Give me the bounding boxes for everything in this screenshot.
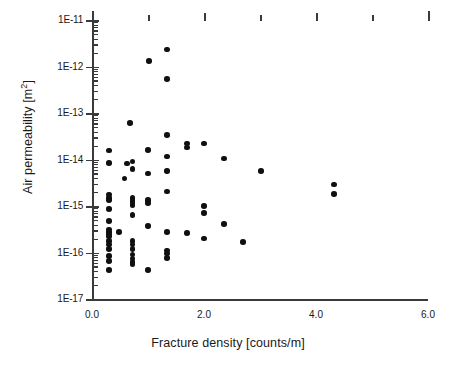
y-axis-title-text: Air permeability [m	[21, 89, 35, 194]
data-point	[106, 246, 112, 252]
y-tick-label: 1E-14	[57, 155, 83, 165]
data-point	[106, 218, 112, 224]
data-point	[145, 223, 151, 229]
y-tick-minor	[92, 146, 98, 147]
y-tick-minor	[92, 184, 98, 185]
data-point	[201, 203, 207, 209]
y-tick-minor	[92, 225, 98, 226]
y-tick-minor	[92, 123, 98, 124]
data-point	[164, 229, 170, 235]
y-tick-minor	[92, 260, 98, 261]
data-point	[201, 236, 207, 242]
data-point	[116, 229, 122, 235]
x-tick-label: 6.0	[421, 310, 435, 320]
data-point	[164, 132, 170, 138]
y-tick-minor	[92, 44, 98, 45]
x-tick-major	[92, 11, 94, 21]
y-tick-minor	[92, 162, 98, 163]
y-tick-minor	[92, 77, 98, 78]
data-point	[164, 47, 170, 53]
y-tick-minor	[92, 74, 98, 75]
data-point	[164, 255, 170, 261]
y-tick-minor	[92, 266, 98, 267]
data-point	[130, 246, 136, 252]
y-tick-minor	[92, 118, 98, 119]
data-point	[145, 147, 151, 153]
scatter-plot-figure: 1E-111E-121E-131E-141E-151E-161E-17 0.02…	[0, 0, 456, 365]
data-point	[145, 267, 151, 273]
y-tick-label: 1E-17	[57, 294, 83, 304]
data-point	[130, 166, 136, 172]
data-point	[258, 168, 264, 174]
y-axis-title: Air permeability [m2]	[21, 7, 35, 267]
y-tick-minor	[92, 277, 98, 278]
y-tick-minor	[92, 213, 98, 214]
data-point	[130, 261, 136, 267]
data-point	[122, 176, 128, 182]
y-tick-minor	[92, 71, 98, 72]
y-tick-minor	[92, 91, 98, 92]
y-tick-minor	[92, 27, 98, 28]
y-axis-title-suffix: ]	[21, 80, 35, 84]
y-tick-minor	[92, 80, 98, 81]
data-point	[106, 258, 112, 264]
data-point	[106, 267, 112, 273]
data-point	[146, 58, 152, 64]
y-tick-minor	[92, 263, 98, 264]
data-point	[184, 145, 190, 151]
data-point	[164, 154, 170, 160]
y-tick-minor	[92, 99, 98, 100]
x-tick-label: 2.0	[197, 310, 211, 320]
data-point	[164, 168, 170, 174]
y-tick-minor	[92, 192, 98, 193]
x-tick-minor	[148, 15, 150, 21]
data-point	[106, 232, 112, 238]
plot-area: 1E-111E-121E-131E-141E-151E-161E-17 0.02…	[92, 20, 428, 299]
data-point	[201, 210, 207, 216]
y-tick-minor	[92, 25, 98, 26]
data-point	[130, 200, 136, 206]
y-tick-minor	[92, 30, 98, 31]
x-axis-line	[92, 299, 428, 301]
y-tick-minor	[92, 120, 98, 121]
y-tick-label: 1E-11	[58, 15, 83, 25]
data-point	[106, 160, 112, 166]
y-tick-minor	[92, 34, 98, 35]
data-point	[145, 171, 151, 177]
y-tick-minor	[92, 271, 98, 272]
data-point	[106, 197, 112, 203]
y-tick-minor	[92, 170, 98, 171]
y-tick-minor	[92, 22, 98, 23]
x-tick-major	[204, 13, 206, 21]
y-tick-minor	[92, 257, 98, 258]
y-tick-minor	[92, 69, 98, 70]
x-tick-minor	[260, 15, 262, 21]
y-tick-minor	[92, 53, 98, 54]
data-point	[130, 159, 136, 165]
y-tick-label: 1E-13	[57, 108, 83, 118]
data-point	[106, 206, 112, 212]
y-tick-major	[86, 299, 99, 301]
data-point	[164, 189, 170, 195]
y-tick-minor	[92, 285, 98, 286]
data-point	[221, 221, 227, 227]
y-tick-label: 1E-15	[57, 201, 83, 211]
data-point	[106, 148, 112, 154]
y-tick-minor	[92, 255, 98, 256]
y-tick-minor	[92, 239, 98, 240]
data-point	[130, 212, 136, 218]
y-tick-minor	[92, 164, 98, 165]
y-tick-minor	[92, 208, 98, 209]
data-point	[124, 161, 130, 167]
y-tick-minor	[92, 137, 98, 138]
x-tick-label: 0.0	[85, 310, 99, 320]
x-tick-label: 4.0	[309, 310, 323, 320]
y-tick-label: 1E-16	[57, 248, 83, 258]
data-point	[240, 239, 246, 245]
data-point	[184, 230, 190, 236]
x-tick-major	[316, 13, 318, 21]
y-tick-minor	[92, 39, 98, 40]
data-point	[221, 156, 227, 162]
y-tick-minor	[92, 173, 98, 174]
x-tick-minor	[372, 15, 374, 21]
